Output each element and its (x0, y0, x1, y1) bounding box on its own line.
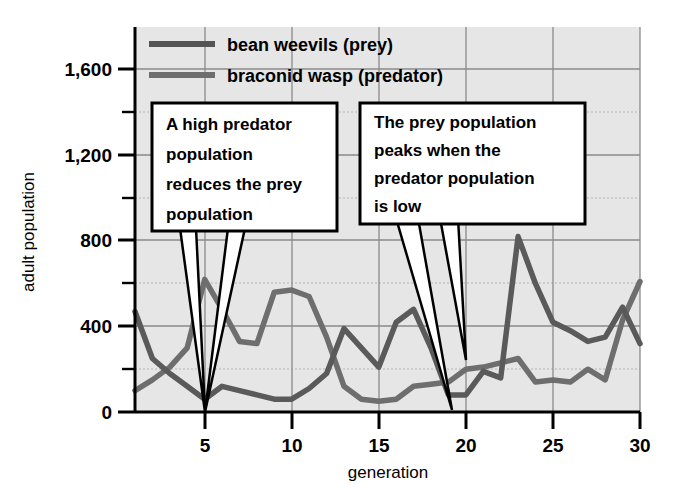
population-cycle-chart: 0 400 800 1,200 1,600 adult population 5… (0, 0, 673, 488)
x-axis (135, 412, 640, 429)
annotation-2-line-3: predator population (374, 169, 535, 188)
annotation-1-line-2: population (166, 145, 253, 164)
annotation-1-line-3: reduces the prey (166, 175, 303, 194)
annotation-predator-reduces-prey[interactable]: A high predator population reduces the p… (152, 103, 337, 231)
y-tick-label-1200: 1,200 (64, 145, 112, 166)
annotation-2-line-4: is low (374, 197, 422, 216)
x-tick-label-25: 25 (542, 435, 564, 456)
y-tick-label-1600: 1,600 (64, 59, 112, 80)
x-tick-label-10: 10 (281, 435, 302, 456)
annotation-1-line-1: A high predator (166, 115, 292, 134)
y-tick-label-0: 0 (101, 402, 112, 423)
y-tick-label-800: 800 (80, 230, 112, 251)
annotation-2-line-1: The prey population (374, 113, 536, 132)
legend-label-bean-weevils: bean weevils (prey) (227, 35, 393, 55)
y-tick-label-400: 400 (80, 316, 112, 337)
legend-label-braconid-wasp: braconid wasp (predator) (227, 66, 443, 86)
x-tick-label-20: 20 (455, 435, 476, 456)
x-axis-title: generation (348, 463, 428, 482)
x-tick-label-15: 15 (368, 435, 390, 456)
x-tick-label-5: 5 (200, 435, 211, 456)
x-tick-label-30: 30 (629, 435, 650, 456)
annotation-2-line-2: peaks when the (374, 141, 501, 160)
annotation-1-line-4: population (166, 205, 253, 224)
y-axis (118, 27, 135, 412)
y-axis-title: adult population (19, 172, 38, 292)
annotation-prey-peaks-when-predator-low[interactable]: The prey population peaks when the preda… (360, 103, 585, 224)
